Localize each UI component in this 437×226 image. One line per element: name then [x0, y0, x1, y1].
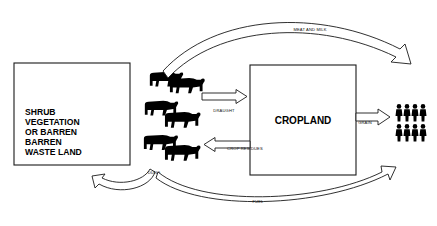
draught-arrow: [202, 90, 247, 104]
person-silhouette: [420, 104, 427, 121]
dung-arrow: [92, 169, 155, 190]
shrub-box-line-0: SHRUB: [25, 107, 56, 117]
crop-residues-label: CROP RESIDUES: [227, 146, 263, 151]
diagram-svg: SHRUB VEGETATION OR BARREN BARREN WASTE …: [0, 0, 437, 226]
cow-silhouette: [165, 112, 201, 128]
cropland-box-label: CROPLAND: [275, 115, 332, 126]
shrub-box-line-3: BARREN: [25, 137, 62, 147]
shrub-box-line-2: OR BARREN: [25, 127, 77, 137]
shrub-box-line-1: VEGETATION: [25, 117, 80, 127]
person-silhouette: [396, 124, 403, 141]
cow-silhouette: [170, 78, 205, 93]
person-silhouette: [404, 104, 411, 121]
fuel-label: FUEL: [252, 199, 264, 204]
cow-silhouette: [165, 145, 201, 161]
person-silhouette: [412, 124, 419, 141]
person-silhouette: [412, 104, 419, 121]
person-silhouette: [420, 124, 427, 141]
shrub-box-line-4: WASTE LAND: [25, 147, 82, 157]
diagram-canvas: SHRUB VEGETATION OR BARREN BARREN WASTE …: [0, 0, 437, 226]
grain-label: GRAIN: [358, 120, 372, 125]
draught-label: DRAUGHT: [213, 108, 235, 113]
meat-and-milk-label: MEAT AND MILK: [293, 27, 326, 32]
cattle-herd: [144, 72, 205, 161]
people-group: [396, 104, 427, 141]
person-silhouette: [404, 124, 411, 141]
person-silhouette: [396, 104, 403, 121]
